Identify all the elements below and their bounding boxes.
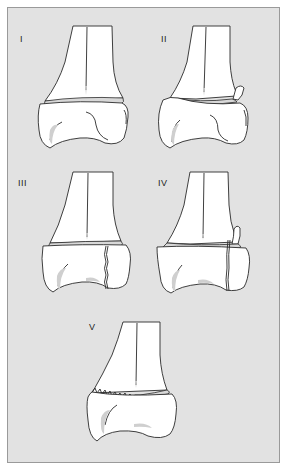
bone-type-I [38,26,128,148]
bone-type-III [42,172,131,292]
bone-type-II [159,26,249,148]
fracture-illustrations [0,0,287,473]
bone-type-IV [157,172,250,293]
bone-type-V [87,322,177,441]
